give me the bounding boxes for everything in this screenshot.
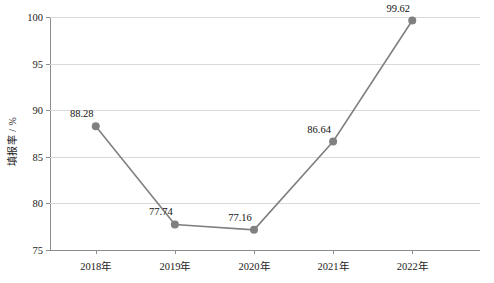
x-tick-mark [175, 250, 176, 254]
series-polyline [96, 21, 412, 230]
plot-area: 7580859095100 2018年2019年2020年2021年2022年 … [50, 17, 480, 250]
x-tick-mark [96, 250, 97, 254]
y-axis-title-text: 填报率 / % [5, 117, 20, 167]
y-tick-label: 80 [33, 198, 44, 209]
y-tick-mark [46, 250, 50, 251]
y-tick-label: 75 [33, 245, 44, 256]
y-tick-label: 100 [27, 12, 43, 23]
x-tick-label: 2019年 [159, 258, 190, 273]
y-tick-label: 85 [33, 151, 44, 162]
data-point-marker[interactable] [250, 226, 258, 234]
x-tick-label: 2018年 [80, 258, 111, 273]
x-tick-mark [412, 250, 413, 254]
series-line [50, 17, 480, 250]
y-axis-title: 填报率 / % [0, 0, 24, 283]
x-tick-label: 2021年 [318, 258, 349, 273]
x-tick-label: 2022年 [397, 258, 428, 273]
x-tick-mark [333, 250, 334, 254]
x-axis-line [50, 250, 480, 251]
line-chart: 填报率 / % 7580859095100 2018年2019年2020年202… [0, 0, 494, 283]
y-tick-label: 90 [33, 105, 44, 116]
data-point-label: 99.62 [386, 3, 410, 14]
data-point-marker[interactable] [92, 122, 100, 130]
x-tick-mark [254, 250, 255, 254]
data-point-marker[interactable] [329, 138, 337, 146]
data-point-marker[interactable] [171, 220, 179, 228]
data-point-marker[interactable] [408, 17, 416, 25]
x-tick-label: 2020年 [239, 258, 270, 273]
y-tick-label: 95 [33, 58, 44, 69]
